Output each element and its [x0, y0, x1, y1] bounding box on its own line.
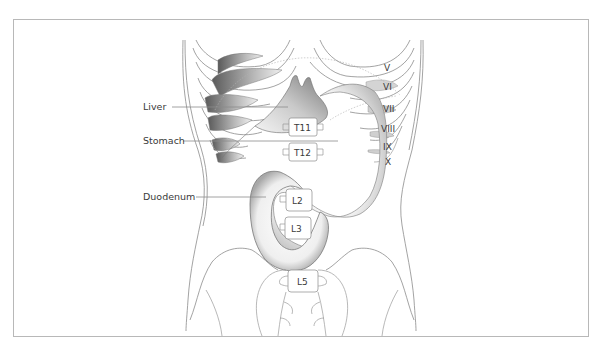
- rib-label-viii: VIII: [381, 124, 395, 134]
- anatomy-illustration: Liver Stomach Duodenum V VI VII VIII IX …: [0, 0, 604, 356]
- vertebra-label-t11: T11: [293, 123, 311, 133]
- vertebra-label-l3: L3: [291, 224, 302, 234]
- rib-label-vii: VII: [383, 104, 394, 114]
- vertebra-label-t12: T12: [293, 148, 311, 158]
- vertebra-label-l5: L5: [297, 277, 308, 287]
- rib-label-x: X: [385, 157, 391, 167]
- ribs-left: [310, 40, 414, 162]
- label-liver: Liver: [143, 101, 166, 112]
- label-duodenum: Duodenum: [143, 191, 195, 202]
- rib-label-v: V: [384, 63, 391, 73]
- rib-label-vi: VI: [383, 82, 392, 92]
- vertebra-label-l2: L2: [292, 196, 303, 206]
- rib-label-ix: IX: [383, 142, 392, 152]
- label-stomach: Stomach: [143, 135, 185, 146]
